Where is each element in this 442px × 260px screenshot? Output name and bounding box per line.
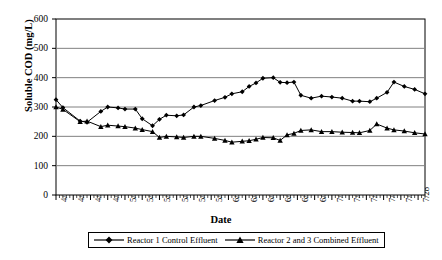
chart-container: Soluble COD (mg/L) 0100200300400500600 4… bbox=[0, 0, 442, 260]
x-axis-title: Date bbox=[0, 214, 442, 225]
legend-label-reactor-1: Reactor 1 Control Effluent bbox=[127, 235, 218, 245]
triangle-marker-icon bbox=[225, 235, 255, 245]
legend-item-reactor-2-3: Reactor 2 and 3 Combined Effluent bbox=[225, 235, 379, 245]
legend-item-reactor-1: Reactor 1 Control Effluent bbox=[94, 235, 218, 245]
legend-label-reactor-2-3: Reactor 2 and 3 Combined Effluent bbox=[258, 235, 379, 245]
diamond-marker-icon bbox=[94, 235, 124, 245]
chart-legend: Reactor 1 Control Effluent Reactor 2 and… bbox=[88, 232, 385, 248]
